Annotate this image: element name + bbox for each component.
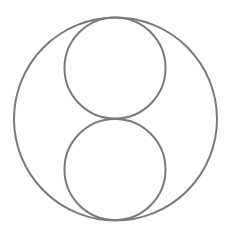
figure-canvas [0,0,228,237]
geometric-figure-svg [0,0,228,237]
